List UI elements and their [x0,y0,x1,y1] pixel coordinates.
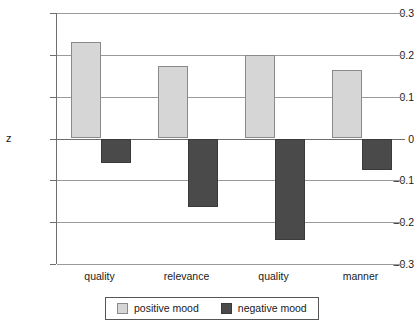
bar [362,139,392,171]
gridline [57,264,405,265]
bar [332,70,362,139]
gridline [57,222,405,223]
bar [158,66,188,138]
gridline [57,180,405,181]
y-axis-tick-mark [50,264,56,265]
gridline [57,55,405,56]
bar [275,139,305,241]
bar-chart: z 0.30.20.10–0.1–0.2–0.3 qualityrelevanc… [0,0,414,332]
bar [188,139,218,208]
x-axis-tick-label: relevance [143,270,230,282]
legend-swatch-icon [117,303,128,314]
x-axis-tick-label: quality [56,270,143,282]
legend-swatch-icon [221,303,232,314]
legend-item: negative mood [221,303,307,314]
bar [245,55,275,139]
plot-area [56,13,404,264]
bar [71,42,101,138]
legend-label: positive mood [134,303,199,314]
y-axis-label: z [6,133,12,144]
x-axis-tick-label: manner [317,270,404,282]
bar [101,139,131,163]
x-axis-tick-label: quality [230,270,317,282]
gridline [57,13,405,14]
legend-item: positive mood [117,303,199,314]
legend-label: negative mood [238,303,307,314]
legend: positive moodnegative mood [105,297,319,320]
